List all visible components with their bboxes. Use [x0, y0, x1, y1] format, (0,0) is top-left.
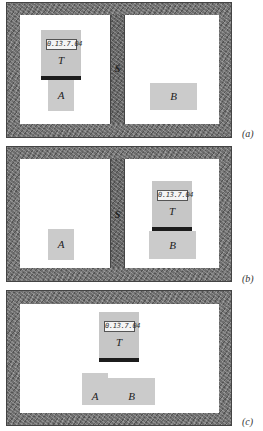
- panel-c: 0.13.7.04 T A B (c): [0, 286, 263, 429]
- thermometer-label: T: [41, 54, 81, 66]
- panel-b: S 0.13.7.04 T B A (b): [0, 143, 263, 286]
- thermometer-label: T: [152, 205, 192, 217]
- thermometer-display: 0.13.7.04: [46, 39, 77, 50]
- thermometer: 0.13.7.04 T: [99, 312, 139, 362]
- insulating-partition: S: [110, 15, 125, 124]
- thermometer: 0.13.7.04 T: [152, 181, 192, 231]
- caption-a: (a): [242, 128, 254, 139]
- caption-b: (b): [242, 273, 254, 284]
- block-b: B: [150, 83, 197, 110]
- thermometer-display: 0.13.7.04: [104, 321, 135, 332]
- block-a: A: [48, 229, 74, 260]
- block-b: B: [149, 231, 196, 259]
- partition-label: S: [111, 63, 124, 74]
- insulating-partition: S: [110, 159, 125, 268]
- panel-a: S 0.13.7.04 T A B (a): [0, 0, 263, 143]
- thermometer-base: [99, 358, 139, 362]
- block-a: A: [82, 373, 108, 405]
- thermometer: 0.13.7.04 T: [41, 30, 81, 80]
- block-b: B: [108, 378, 155, 405]
- block-a: A: [48, 80, 74, 111]
- partition-label: S: [111, 209, 124, 220]
- caption-c: (c): [242, 416, 253, 427]
- thermometer-display: 0.13.7.04: [157, 190, 188, 201]
- thermometer-label: T: [99, 336, 139, 348]
